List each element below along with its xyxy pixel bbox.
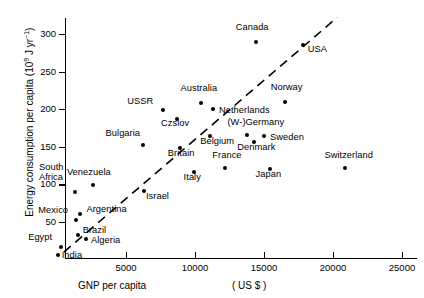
data-point-label: Italy — [184, 172, 201, 182]
data-point — [74, 218, 78, 222]
y-tick-150 — [59, 147, 65, 148]
x-axis-units: ( US $ ) — [232, 280, 266, 291]
data-point — [161, 108, 165, 112]
data-point — [76, 233, 80, 237]
data-point-label: SouthAfrica — [39, 162, 64, 182]
data-point — [199, 101, 203, 105]
x-tick-label-15000: 15000 — [234, 262, 294, 273]
data-point-label: Algeria — [91, 235, 120, 245]
data-point-label: Bulgaria — [106, 128, 141, 138]
data-point — [283, 100, 287, 104]
x-tick-label-20000: 20000 — [303, 262, 363, 273]
data-point — [211, 107, 215, 111]
y-axis-title-mid: J yr — [24, 39, 35, 58]
data-point — [343, 166, 347, 170]
data-point — [223, 166, 227, 170]
data-point-label: Belgium — [200, 136, 234, 146]
data-point-label: Argentina — [86, 204, 126, 214]
data-point — [141, 143, 145, 147]
y-axis-exponent: 9 — [23, 58, 30, 62]
data-point-label: (W-)Germany — [227, 117, 284, 127]
x-tick-label-5000: 5000 — [96, 262, 156, 273]
data-point — [301, 43, 305, 47]
data-point — [78, 212, 82, 216]
x-tick-20000 — [333, 252, 334, 258]
data-point-label: Japan — [256, 169, 282, 179]
data-point — [56, 253, 60, 257]
y-axis-line — [65, 18, 66, 259]
data-point — [91, 183, 95, 187]
x-tick-label-10000: 10000 — [165, 262, 225, 273]
y-tick-300 — [59, 34, 65, 35]
y-axis-title-text: Energy consumption per capita (10 — [24, 62, 35, 217]
data-point — [84, 237, 88, 241]
data-point-label: Denmark — [237, 142, 275, 152]
y-axis-title-end: ) — [24, 28, 35, 31]
x-tick-5000 — [126, 252, 127, 258]
data-point-label: Sweden — [270, 132, 304, 142]
data-point — [254, 40, 258, 44]
data-point-label: Venezuela — [67, 167, 111, 177]
data-point-label: Australia — [181, 83, 218, 93]
x-tick-10000 — [195, 252, 196, 258]
y-tick-250 — [59, 72, 65, 73]
data-point-label: Canada — [236, 22, 269, 32]
scatter-chart: 5010015020025030050001000015000200002500… — [0, 0, 424, 298]
data-point-label: Switzerland — [324, 150, 373, 160]
x-tick-label-25000: 25000 — [372, 262, 424, 273]
data-point-label: Netherlands — [219, 105, 270, 115]
data-point — [245, 133, 249, 137]
data-point-label: Britain — [168, 148, 195, 158]
data-point-label: Mexico — [38, 205, 68, 215]
data-point-label: USSR — [127, 96, 153, 106]
data-point — [73, 190, 77, 194]
data-point — [262, 134, 266, 138]
data-point-label: USA — [308, 44, 327, 54]
data-point-label: France — [212, 150, 241, 160]
x-axis-title: GNP per capita — [78, 280, 146, 291]
data-point-label: India — [62, 250, 82, 260]
y-tick-100 — [59, 184, 65, 185]
x-tick-25000 — [402, 252, 403, 258]
data-point-label: Israel — [146, 191, 169, 201]
y-axis-title: Energy consumption per capita (109 J yr−… — [23, 7, 35, 237]
y-tick-50 — [59, 222, 65, 223]
x-axis-line — [65, 258, 417, 259]
x-tick-15000 — [264, 252, 265, 258]
data-point-label: Brazil — [83, 225, 107, 235]
data-point-label: Czslov — [161, 118, 189, 128]
y-axis-exponent-2: −1 — [23, 31, 30, 39]
data-point — [59, 245, 63, 249]
y-tick-200 — [59, 109, 65, 110]
data-point-label: Norway — [271, 82, 303, 92]
